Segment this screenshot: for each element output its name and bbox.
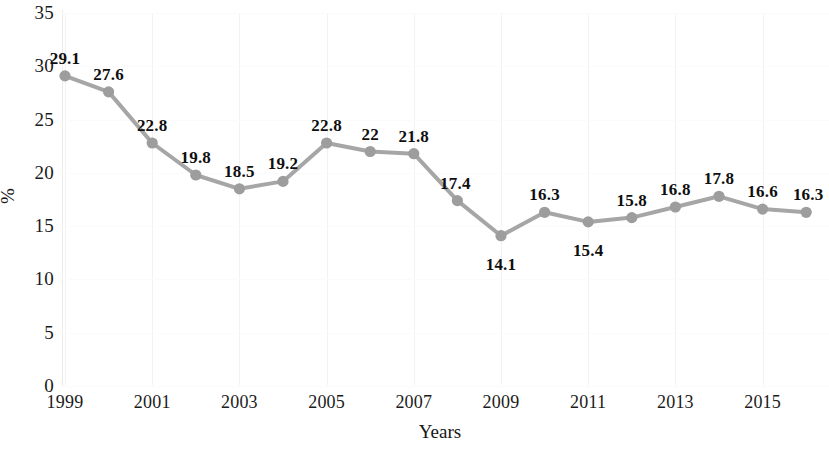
data-point [408,148,419,159]
data-point-label: 21.8 [399,128,430,146]
y-tick-label: 15 [8,216,54,235]
y-axis-ticks: 35302520151050 [0,0,54,450]
data-point [321,137,332,148]
data-point [626,212,637,223]
data-point [234,183,245,194]
y-tick-label: 25 [8,110,54,129]
data-point-label: 19.2 [268,155,299,173]
x-tick-label: 2003 [199,392,279,412]
data-point [103,86,114,97]
x-tick-label: 2015 [723,392,803,412]
data-point-label: 27.6 [93,66,124,84]
x-tick-label: 2011 [548,392,628,412]
data-point-label: 22.8 [311,117,342,135]
x-tick-label: 2013 [635,392,715,412]
y-tick-label: 30 [8,56,54,75]
data-point [583,216,594,227]
series-layer [0,0,829,450]
x-axis-title: Years [0,421,829,442]
data-point-label: 15.4 [573,242,604,260]
data-point [147,137,158,148]
data-point-label: 22.8 [137,117,168,135]
data-point [190,169,201,180]
data-point-label: 19.8 [181,149,212,167]
data-point-label: 16.8 [660,181,691,199]
data-point-label: 17.4 [440,175,471,193]
data-point [495,230,506,241]
data-point-label: 16.6 [747,183,778,201]
data-point [59,70,70,81]
data-point [801,207,812,218]
x-tick-label: 2001 [112,392,192,412]
data-point-label: 16.3 [793,186,824,204]
y-tick-label: 5 [8,323,54,342]
data-point-label: 17.8 [704,170,735,188]
data-point-label: 29.1 [50,50,81,68]
x-tick-label: 1999 [25,392,105,412]
series-line-percentage [65,76,806,236]
data-point-label: 18.5 [224,163,255,181]
x-tick-label: 2009 [461,392,541,412]
y-tick-label: 10 [8,269,54,288]
y-tick-label: 35 [8,3,54,22]
data-point [277,176,288,187]
data-point [670,201,681,212]
data-point [539,207,550,218]
data-point [713,191,724,202]
data-point-label: 22 [361,126,378,144]
x-tick-label: 2005 [287,392,367,412]
data-point [365,146,376,157]
x-tick-label: 2007 [374,392,454,412]
data-point [452,195,463,206]
line-chart: 35302520151050 1999200120032005200720092… [0,0,829,450]
data-point [757,204,768,215]
data-point-label: 14.1 [486,256,517,274]
data-point-label: 16.3 [529,186,560,204]
y-axis-title: % [0,176,18,216]
data-point-label: 15.8 [617,192,648,210]
